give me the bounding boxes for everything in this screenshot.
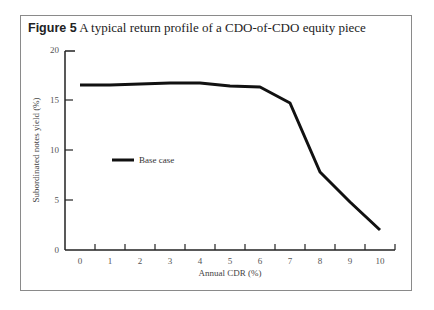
y-axis-title: Subordinated notes yield (%) bbox=[31, 97, 41, 202]
x-tick-label: 1 bbox=[108, 256, 113, 266]
y-tick-label: 15 bbox=[50, 95, 60, 105]
x-tick-label: 4 bbox=[198, 256, 203, 266]
x-tick-label: 7 bbox=[288, 256, 293, 266]
y-tick-label: 0 bbox=[55, 245, 60, 255]
line-chart: 05101520012345678910 Subordinated notes … bbox=[0, 0, 434, 310]
y-tick-label: 5 bbox=[55, 195, 60, 205]
x-tick-label: 6 bbox=[258, 256, 263, 266]
ticks: 05101520012345678910 bbox=[50, 45, 385, 266]
axes bbox=[65, 51, 395, 250]
x-tick-label: 9 bbox=[348, 256, 353, 266]
x-tick-label: 10 bbox=[376, 256, 386, 266]
x-tick-label: 5 bbox=[228, 256, 233, 266]
x-tick-label: 8 bbox=[318, 256, 323, 266]
legend-label: Base case bbox=[139, 155, 174, 165]
y-tick-label: 10 bbox=[50, 145, 60, 155]
x-tick-label: 3 bbox=[168, 256, 173, 266]
x-tick-label: 2 bbox=[138, 256, 143, 266]
x-axis-title: Annual CDR (%) bbox=[199, 268, 262, 278]
x-tick-label: 0 bbox=[78, 256, 83, 266]
legend: Base case bbox=[112, 155, 174, 165]
y-tick-label: 20 bbox=[50, 45, 60, 55]
base-case-line bbox=[80, 83, 380, 230]
